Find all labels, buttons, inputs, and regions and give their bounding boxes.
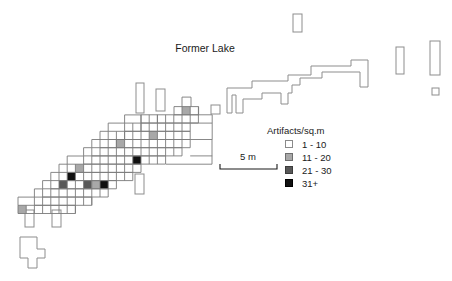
- excavation-plan-figure: 5 m Former Lake Artifacts/sq.m 1 - 10 11…: [0, 0, 452, 281]
- cell-11-20: [92, 181, 100, 189]
- cell-11-20: [75, 164, 83, 172]
- legend-label-11-20: 11 - 20: [302, 152, 331, 163]
- legend-item-11-20: 11 - 20: [286, 152, 331, 163]
- trench-far-right-a: [396, 47, 404, 74]
- trench-far-right-small-square: [432, 88, 439, 95]
- grid-lines-group: [18, 97, 212, 213]
- cell-11-20: [18, 205, 26, 213]
- scale-bar-line: [220, 164, 277, 169]
- trench-lower-left-vert-b: [52, 210, 61, 227]
- grid-boundary-left-step: [18, 115, 141, 205]
- grid-extension-right-edge: [182, 97, 191, 107]
- grid-row-6: [92, 148, 182, 156]
- bottom-left-polygon-group: [20, 237, 45, 268]
- trench-lower-center-vert: [135, 174, 144, 194]
- cell-31plus: [67, 172, 75, 180]
- grid-row-11: [43, 189, 109, 197]
- cell-11-20: [149, 131, 157, 139]
- cell-21-30: [59, 181, 67, 189]
- scale-bar-group: 5 m: [220, 151, 277, 169]
- scale-bar-label: 5 m: [240, 151, 256, 162]
- trench-narrow-mid-tall: [156, 89, 165, 111]
- grid-row-2: [141, 115, 198, 123]
- bottom-left-stepped-outline: [20, 237, 45, 268]
- grid-row-3: [125, 123, 191, 131]
- legend-title: Artifacts/sq.m: [267, 125, 325, 136]
- cell-31plus: [100, 181, 108, 189]
- grid-row-5: [100, 140, 190, 148]
- cell-21-30: [84, 181, 92, 189]
- legend-swatch-21-30: [286, 167, 293, 174]
- grid-row-12: [34, 197, 91, 205]
- legend-group: Artifacts/sq.m 1 - 10 11 - 20 21 - 30 31…: [267, 125, 332, 189]
- trench-narrow-left-tall: [136, 83, 144, 113]
- grid-extension-upper-right: [190, 107, 212, 140]
- legend-label-1-10: 1 - 10: [302, 139, 326, 150]
- legend-label-31-plus: 31+: [302, 178, 319, 189]
- cell-11-20: [182, 107, 190, 115]
- legend-label-21-30: 21 - 30: [302, 165, 332, 176]
- legend-swatch-1-10: [286, 141, 293, 148]
- legend-swatch-31-plus: [286, 180, 293, 187]
- trench-center-small-square: [211, 105, 220, 114]
- grid-lower-right-extension: [166, 140, 212, 165]
- grid-row-4: [108, 131, 190, 139]
- stepped-trench-right-group: [227, 60, 368, 113]
- former-lake-label: Former Lake: [175, 42, 235, 54]
- legend-item-1-10: 1 - 10: [286, 139, 327, 150]
- cell-11-20: [116, 140, 124, 148]
- stepped-trench-right-outline: [227, 60, 368, 113]
- cell-31plus: [133, 156, 141, 164]
- grid-row-13: [18, 205, 75, 213]
- grid-row-7: [84, 156, 166, 164]
- legend-item-31-plus: 31+: [286, 178, 319, 189]
- legend-item-21-30: 21 - 30: [286, 165, 332, 176]
- legend-swatch-11-20: [286, 154, 293, 161]
- trench-top-center: [293, 14, 302, 32]
- trench-far-right-b: [430, 41, 440, 75]
- site-plan-svg: 5 m Former Lake Artifacts/sq.m 1 - 10 11…: [0, 0, 452, 281]
